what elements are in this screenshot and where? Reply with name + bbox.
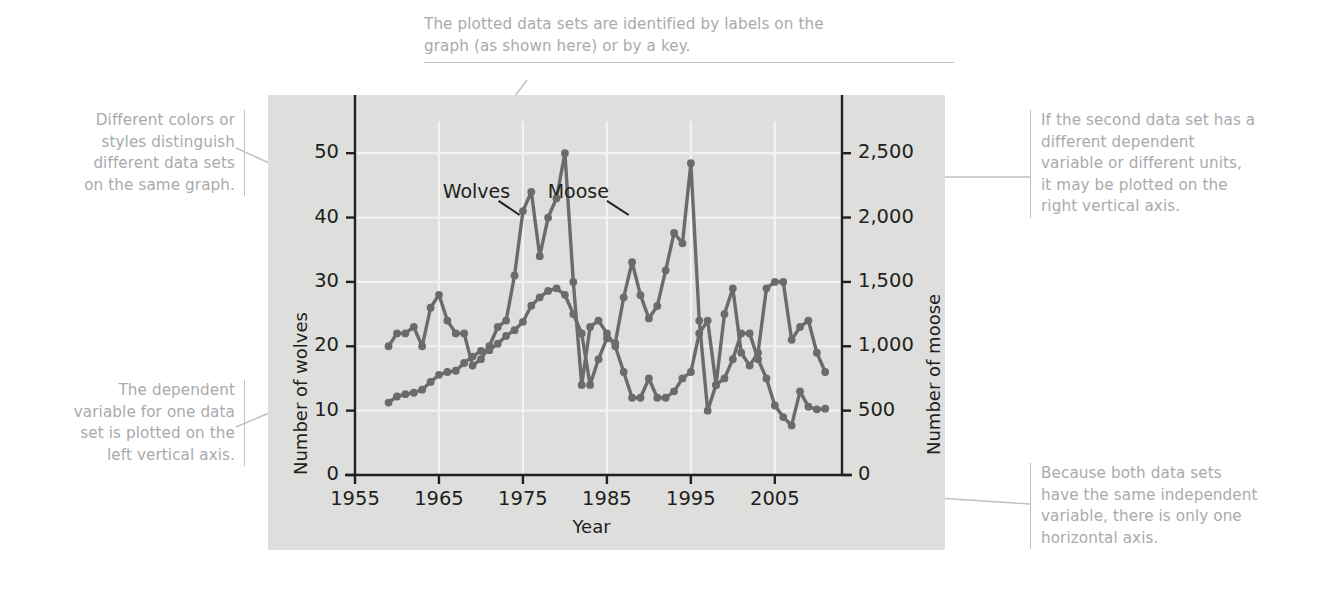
y2-axis-title: Number of moose xyxy=(923,294,944,455)
x-tick-label: 1955 xyxy=(315,487,395,510)
x-tick-label: 2005 xyxy=(735,487,815,510)
y2-tick-label: 1,500 xyxy=(858,269,914,292)
y2-tick-label: 1,000 xyxy=(858,333,914,356)
y-tick-label: 30 xyxy=(291,269,339,292)
series-label-moose: Moose xyxy=(548,180,609,202)
y-tick-label: 50 xyxy=(291,140,339,163)
chart: Number of wolves Number of moose Year Wo… xyxy=(268,95,945,550)
x-tick-label: 1975 xyxy=(483,487,563,510)
callout-top: The plotted data sets are identified by … xyxy=(424,14,954,63)
plot-area xyxy=(268,95,945,550)
series-label-wolves: Wolves xyxy=(443,180,510,202)
x-tick-label: 1965 xyxy=(399,487,479,510)
y2-tick-label: 2,500 xyxy=(858,140,914,163)
y-tick-label: 10 xyxy=(291,398,339,421)
x-axis-title: Year xyxy=(573,516,611,537)
y-tick-label: 0 xyxy=(291,462,339,485)
callout-right-top: If the second data set has a different d… xyxy=(1030,110,1338,218)
y2-tick-label: 2,000 xyxy=(858,205,914,228)
y2-tick-label: 500 xyxy=(858,398,895,421)
x-tick-label: 1995 xyxy=(651,487,731,510)
callout-right-bottom: Because both data sets have the same ind… xyxy=(1030,463,1338,549)
y2-tick-label: 0 xyxy=(858,462,870,485)
callout-left-top: Different colors or styles distinguish d… xyxy=(28,110,245,196)
gridlines xyxy=(355,121,842,475)
y-tick-label: 40 xyxy=(291,205,339,228)
figure-root: The plotted data sets are identified by … xyxy=(0,0,1338,604)
x-tick-label: 1985 xyxy=(567,487,647,510)
callout-left-bottom: The dependent variable for one data set … xyxy=(28,380,245,466)
y-tick-label: 20 xyxy=(291,333,339,356)
